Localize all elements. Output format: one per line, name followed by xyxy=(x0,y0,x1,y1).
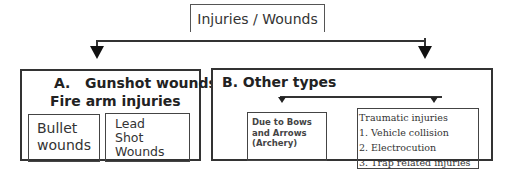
archery-label: Due to Bows and Arrows (Archery) xyxy=(252,117,312,149)
traumatic-injuries-list: Traumatic injuries 1. Vehicle collision … xyxy=(359,110,470,170)
lead-shot-wounds-label: Lead Shot Wounds xyxy=(115,117,165,161)
label-line: Due to Bows xyxy=(252,117,312,128)
label-line: Lead xyxy=(115,117,165,131)
arrow-down-icon xyxy=(90,46,104,59)
main-connector-line xyxy=(96,40,426,42)
label-line: Wounds xyxy=(115,145,165,159)
arrow-down-icon xyxy=(430,97,438,103)
label-line: (Archery) xyxy=(252,138,312,149)
label-line: Bullet xyxy=(37,120,91,137)
list-item: 2. Electrocution xyxy=(359,140,470,155)
arrow-down-icon xyxy=(418,46,432,59)
bullet-wounds-label: Bullet wounds xyxy=(37,120,91,154)
category-a-subtitle: Fire arm injuries xyxy=(50,93,181,109)
category-b-title: B. Other types xyxy=(222,74,336,90)
label-line: wounds xyxy=(37,137,91,154)
arrow-down-icon xyxy=(278,97,286,103)
root-label: Injuries / Wounds xyxy=(190,11,325,27)
list-item: 3. Trap related injuries xyxy=(359,155,470,170)
label-line: Shot xyxy=(115,131,165,145)
list-item: 1. Vehicle collision xyxy=(359,125,470,140)
traumatic-injuries-title: Traumatic injuries xyxy=(359,110,470,125)
label-line: and Arrows xyxy=(252,128,312,139)
sub-connector-line xyxy=(280,96,442,98)
category-a-title: A. Gunshot wounds- xyxy=(54,75,223,91)
